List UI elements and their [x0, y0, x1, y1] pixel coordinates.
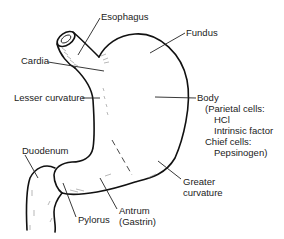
- esophagus-shape: [54, 28, 99, 68]
- label-body: Body: [197, 93, 219, 104]
- label-greater-curvature-1: Greater: [183, 177, 215, 188]
- label-antrum: Antrum: [119, 206, 150, 217]
- label-body-detail-5: Pepsinogen): [214, 148, 267, 159]
- label-lesser-curvature: Lesser curvature: [14, 93, 85, 104]
- label-body-detail-2: HCl: [214, 115, 230, 126]
- shading-hatch: [30, 48, 156, 230]
- label-greater-curvature-2: curvature: [183, 188, 223, 199]
- label-duodenum: Duodenum: [22, 146, 68, 157]
- stomach-outline: [26, 34, 188, 232]
- label-cardia: Cardia: [21, 56, 49, 67]
- label-fundus: Fundus: [186, 28, 218, 39]
- label-body-detail-4: Chief cells:: [205, 137, 251, 148]
- stomach-diagram: [0, 0, 284, 239]
- antrum-boundary: [112, 140, 132, 175]
- label-antrum-gastrin: (Gastrin): [119, 217, 156, 228]
- label-esophagus: Esophagus: [101, 12, 149, 23]
- label-body-detail-1: (Parietal cells:: [205, 104, 265, 115]
- label-body-detail-3: Intrinsic factor: [214, 126, 273, 137]
- label-pylorus: Pylorus: [78, 215, 110, 226]
